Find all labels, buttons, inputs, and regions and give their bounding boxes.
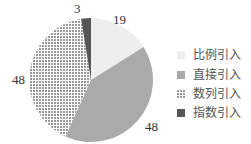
- legend-swatch: [177, 90, 185, 98]
- data-label: 19: [113, 12, 126, 27]
- legend-label: 数列引入: [193, 86, 241, 101]
- legend-label: 比例引入: [193, 48, 241, 62]
- legend: 比例引入直接引入数列引入指数引入: [177, 48, 241, 120]
- legend-label: 指数引入: [193, 105, 241, 120]
- data-label: 3: [74, 1, 81, 16]
- pie-slices: [29, 18, 153, 142]
- legend-label: 直接引入: [193, 67, 241, 82]
- legend-swatch: [177, 51, 185, 59]
- legend-swatch: [177, 71, 185, 79]
- data-label: 48: [12, 72, 25, 87]
- legend-swatch: [177, 109, 185, 117]
- data-label: 48: [145, 119, 158, 134]
- pie-chart: 1948483 比例引入直接引入数列引入指数引入: [0, 0, 251, 144]
